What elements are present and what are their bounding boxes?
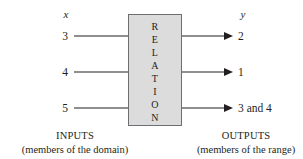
output-value-2: 1 xyxy=(238,67,244,79)
inputs-caption-subtitle: (members of the domain) xyxy=(22,145,128,156)
input-value-1: 3 xyxy=(62,31,68,43)
output-arrowheads xyxy=(224,32,233,112)
input-variable-label: x xyxy=(64,9,69,20)
relation-letter-1: R xyxy=(152,22,159,32)
relation-letter-5: T xyxy=(152,74,158,84)
relation-diagram: x y 3 4 5 2 1 3 and 4 R E L A T I O N IN… xyxy=(0,0,303,159)
input-value-3: 5 xyxy=(62,103,68,115)
input-lines xyxy=(74,36,128,108)
relation-letter-6: I xyxy=(153,87,157,97)
relation-letter-3: L xyxy=(152,48,158,58)
output-value-1: 2 xyxy=(238,31,244,43)
inputs-caption-title: INPUTS xyxy=(56,131,94,142)
outputs-caption-title: OUTPUTS xyxy=(222,131,271,142)
relation-letter-7: O xyxy=(151,100,159,110)
relation-letter-4: A xyxy=(151,61,159,71)
relation-letter-8: N xyxy=(151,113,159,123)
arrowhead-2 xyxy=(224,68,233,76)
output-arrows xyxy=(182,36,227,108)
input-value-2: 4 xyxy=(62,67,68,79)
output-variable-label: y xyxy=(241,9,246,20)
arrowhead-3 xyxy=(224,104,233,112)
relation-letter-2: E xyxy=(152,35,158,45)
arrowhead-1 xyxy=(224,32,233,40)
outputs-caption-subtitle: (members of the range) xyxy=(197,145,295,156)
output-value-3: 3 and 4 xyxy=(238,103,272,115)
